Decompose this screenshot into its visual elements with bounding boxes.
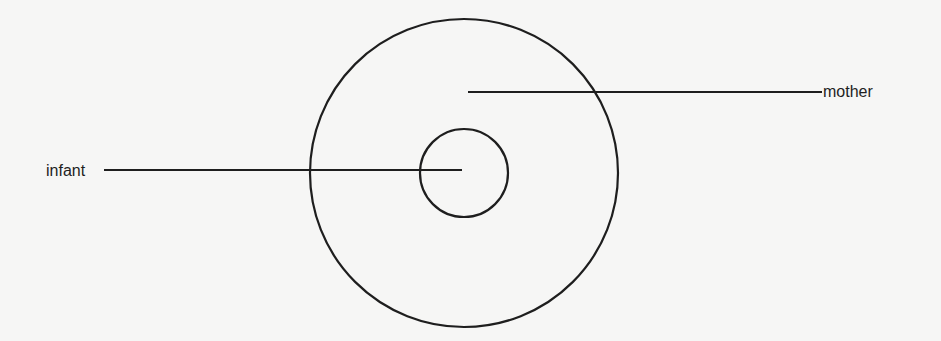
inner-circle-infant [420,129,508,217]
diagram-canvas: infant mother [0,0,941,341]
infant-label: infant [46,163,85,179]
mother-label: mother [823,84,873,100]
outer-circle-mother [310,19,618,327]
concentric-circles-diagram [0,0,941,341]
